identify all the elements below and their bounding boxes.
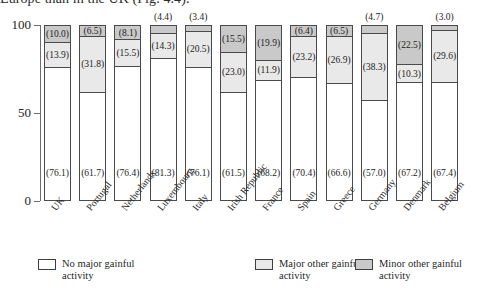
legend-item[interactable]: No major gainful activity: [38, 258, 154, 282]
segment-value-label: (67.4): [433, 168, 456, 178]
bar-segment: (10.3): [397, 65, 422, 83]
segment-value-label: (10.0): [46, 29, 69, 39]
segment-value-label: (6.5): [84, 26, 102, 36]
bar-segment: (11.9): [256, 61, 281, 82]
segment-value-label: (6.4): [295, 26, 313, 36]
segment-value-label: (4.4): [143, 12, 183, 22]
bar-segment: (15.5): [221, 26, 246, 53]
segment-value-label: (14.3): [152, 41, 175, 51]
segment-value-label: (70.4): [292, 168, 315, 178]
bar-segment: [362, 26, 387, 34]
segment-value-label: (22.5): [398, 40, 421, 50]
bar-segment: (15.5): [115, 40, 140, 67]
bar-segment: (31.8): [80, 37, 105, 92]
bar-segment: (14.3): [151, 34, 176, 59]
chart-root: Europe than in the UK (Fig. 4.4). 050100…: [0, 0, 494, 291]
chart-legend: No major gainful activityMajor other gai…: [0, 252, 494, 291]
bar-netherlands[interactable]: (8.1)(15.5)(76.4): [114, 25, 141, 201]
bar-segment: [151, 26, 176, 34]
segment-value-label: (31.8): [81, 59, 104, 69]
segment-value-label: (76.1): [46, 168, 69, 178]
bar-segment: (6.5): [327, 26, 352, 37]
segment-value-label: (19.9): [257, 38, 280, 48]
segment-value-label: (15.5): [116, 48, 139, 58]
bar-uk[interactable]: (10.0)(13.9)(76.1): [44, 25, 71, 201]
segment-value-label: (4.7): [354, 12, 394, 22]
segment-value-label: (61.7): [81, 168, 104, 178]
bar-segment: (10.0): [45, 26, 70, 43]
segment-value-label: (8.1): [119, 28, 137, 38]
bar-segment: (6.4): [291, 26, 316, 37]
segment-value-label: (20.5): [187, 44, 210, 54]
bar-segment: (23.2): [291, 37, 316, 77]
bar-segment: (6.5): [80, 26, 105, 37]
legend-swatch-major: [255, 259, 273, 270]
bar-segment: (20.5): [186, 32, 211, 68]
segment-value-label: (3.4): [178, 12, 218, 22]
bar-denmark[interactable]: (22.5)(10.3)(67.2): [396, 25, 423, 201]
bar-segment: (13.9): [45, 43, 70, 67]
segment-value-label: (13.9): [46, 50, 69, 60]
bar-segment: (38.3): [362, 34, 387, 101]
bar-segment: (76.1): [45, 68, 70, 200]
legend-item[interactable]: Major other gainful activity: [255, 258, 371, 282]
segment-value-label: (26.9): [328, 55, 351, 65]
bar-segment: (70.4): [291, 78, 316, 200]
bar-spain[interactable]: (6.4)(23.2)(70.4): [290, 25, 317, 201]
segment-value-label: (29.6): [433, 51, 456, 61]
legend-label: Minor other gainful activity: [379, 258, 471, 282]
segment-value-label: (61.5): [222, 168, 245, 178]
segment-value-label: (3.0): [425, 12, 465, 22]
legend-item[interactable]: Minor other gainful activity: [355, 258, 471, 282]
bar-segment: (19.9): [256, 26, 281, 61]
bar-segment: (68.2): [256, 81, 281, 200]
bar-segment: (29.6): [432, 31, 457, 83]
bar-segment: (81.3): [151, 59, 176, 200]
segment-value-label: (67.2): [398, 168, 421, 178]
bar-segment: (8.1): [115, 26, 140, 40]
segment-value-label: (23.0): [222, 67, 245, 77]
segment-value-label: (23.2): [292, 52, 315, 62]
bar-segment: (22.5): [397, 26, 422, 65]
legend-swatch-minor: [355, 259, 373, 270]
segment-value-label: (6.5): [330, 26, 348, 36]
segment-value-label: (66.6): [328, 168, 351, 178]
bar-germany[interactable]: (38.3)(57.0): [361, 25, 388, 201]
bar-segment: (76.1): [186, 68, 211, 200]
segment-value-label: (57.0): [363, 168, 386, 178]
bar-irish-republic[interactable]: (15.5)(23.0)(61.5): [220, 25, 247, 201]
segment-value-label: (15.5): [222, 34, 245, 44]
legend-label: No major gainful activity: [62, 258, 154, 282]
plot-area: 050100 (10.0)(13.9)(76.1)(6.5)(31.8)(61.…: [0, 0, 494, 215]
segment-value-label: (11.9): [257, 65, 280, 75]
segment-value-label: (10.3): [398, 69, 421, 79]
bar-segment: (76.4): [115, 67, 140, 200]
bar-belgium[interactable]: (29.6)(67.4): [431, 25, 458, 201]
legend-swatch-none: [38, 259, 56, 270]
segment-value-label: (38.3): [363, 62, 386, 72]
segment-value-label: (76.4): [116, 168, 139, 178]
bar-portugal[interactable]: (6.5)(31.8)(61.7): [79, 25, 106, 201]
bar-segment: (26.9): [327, 37, 352, 84]
bar-greece[interactable]: (6.5)(26.9)(66.6): [326, 25, 353, 201]
bar-segment: (23.0): [221, 53, 246, 93]
